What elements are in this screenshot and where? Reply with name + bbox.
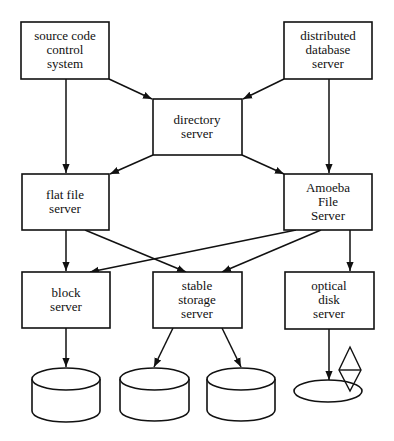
node-label: File [318,194,338,209]
node-label: flat file [46,187,84,202]
edge-flat-to-stable [85,230,186,272]
node-directory-server: directory server [153,99,242,155]
node-stable-storage-server: stable storage server [153,272,242,328]
node-label: server [181,126,213,141]
node-optical-disk-server: optical disk server [285,272,374,329]
node-label: control [47,42,84,57]
edge-stable-to-disk-left [154,328,173,367]
node-label: Server [311,208,346,223]
edge-directory-to-amoeba [242,155,284,174]
node-label: storage [178,292,216,307]
edge-source-to-directory [109,79,152,99]
edge-db-to-directory [243,79,284,99]
node-label: database [306,42,351,57]
node-label: directory [174,112,221,127]
node-label: server [49,201,81,216]
edge-amoeba-to-stable [222,230,321,272]
node-source-code-control-system: source code control system [21,22,109,79]
node-label: source code [34,28,96,43]
node-label: distributed [300,28,356,43]
disk-icon [207,368,275,421]
node-label: server [313,306,345,321]
node-distributed-database-server: distributed database server [284,22,372,79]
disk-icon [120,368,189,421]
node-label: server [50,299,82,314]
server-diagram: source code control system distributed d… [0,0,394,441]
node-amoeba-file-server: Amoeba File Server [284,174,372,230]
node-label: system [47,56,83,71]
edge-directory-to-flat [110,155,153,174]
node-flat-file-server: flat file server [22,174,109,230]
node-label: optical [311,278,347,293]
disk-icon [32,368,100,422]
node-block-server: block server [22,272,110,328]
node-label: server [312,56,344,71]
node-label: disk [318,292,340,307]
node-label: block [52,285,81,300]
edge-stable-to-disk-right [222,328,241,367]
node-label: server [181,306,213,321]
optical-disk-icon [294,380,362,402]
node-label: stable [182,278,213,293]
node-label: Amoeba [306,180,350,195]
edge-amoeba-to-block [90,230,296,272]
